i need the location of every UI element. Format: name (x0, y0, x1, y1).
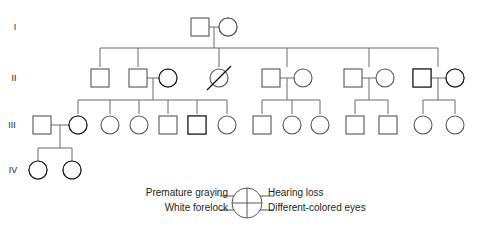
male-square[interactable] (33, 116, 51, 134)
individual-III-10[interactable] (311, 116, 329, 134)
male-square[interactable] (129, 69, 147, 87)
female-circle[interactable] (414, 116, 432, 134)
male-square[interactable] (344, 69, 362, 87)
individual-II-5[interactable] (262, 69, 280, 87)
male-square[interactable] (191, 18, 209, 36)
generation-label-III: III (8, 120, 16, 130)
individual-III-12[interactable] (379, 116, 397, 134)
sibship-connector (423, 100, 455, 114)
generation-label-IV: IV (9, 165, 18, 175)
male-outline (413, 69, 431, 87)
individual-III-7[interactable] (218, 116, 236, 134)
individual-I-1[interactable] (191, 18, 209, 36)
male-outline (188, 116, 206, 134)
individual-II-1[interactable] (91, 69, 109, 87)
individual-II-8[interactable] (376, 69, 394, 87)
individual-II-9[interactable] (413, 69, 431, 87)
individual-II-2[interactable] (129, 69, 147, 87)
male-square[interactable] (379, 116, 397, 134)
female-circle[interactable] (218, 116, 236, 134)
legend-label-right-0: Hearing loss (268, 187, 324, 198)
pedigree-canvas: IIIIIIIVPremature grayingWhite forelockH… (0, 0, 482, 228)
individual-III-13[interactable] (414, 116, 432, 134)
individual-III-6[interactable] (188, 116, 206, 134)
individual-IV-1[interactable] (29, 161, 47, 179)
individual-III-2[interactable] (69, 116, 87, 134)
female-circle[interactable] (376, 69, 394, 87)
individual-II-6[interactable] (294, 69, 312, 87)
female-outline (219, 18, 237, 36)
generation-label-I: I (14, 22, 17, 32)
female-outline (446, 69, 464, 87)
individual-III-14[interactable] (446, 116, 464, 134)
legend-label-left-0: Premature graying (146, 187, 228, 198)
male-square[interactable] (253, 116, 271, 134)
male-square[interactable] (262, 69, 280, 87)
male-square[interactable] (159, 116, 177, 134)
generation-label-II: II (11, 73, 16, 83)
sibship-connector (78, 100, 227, 114)
individual-II-10[interactable] (446, 69, 464, 87)
pedigree-chart: IIIIIIIVPremature grayingWhite forelockH… (0, 0, 482, 228)
female-circle[interactable] (311, 116, 329, 134)
sibship-connector (355, 100, 388, 114)
individual-III-5[interactable] (159, 116, 177, 134)
male-square[interactable] (91, 69, 109, 87)
individual-III-8[interactable] (253, 116, 271, 134)
sibship-connector (100, 48, 438, 67)
female-circle[interactable] (294, 69, 312, 87)
individual-III-4[interactable] (130, 116, 148, 134)
legend (220, 188, 274, 218)
female-circle[interactable] (283, 116, 301, 134)
female-circle[interactable] (446, 116, 464, 134)
female-outline (63, 161, 81, 179)
female-outline (69, 116, 87, 134)
individual-III-3[interactable] (101, 116, 119, 134)
legend-label-left-1: White forelock (165, 202, 229, 213)
sibship-connector (262, 100, 320, 114)
individual-III-9[interactable] (283, 116, 301, 134)
individual-III-1[interactable] (33, 116, 51, 134)
individual-II-4[interactable] (207, 66, 231, 90)
sibship-connector (38, 148, 72, 160)
legend-label-right-1: Different-colored eyes (268, 202, 366, 213)
female-circle[interactable] (101, 116, 119, 134)
individual-II-7[interactable] (344, 69, 362, 87)
individual-IV-2[interactable] (63, 161, 81, 179)
female-outline (29, 161, 47, 179)
female-outline (159, 69, 177, 87)
individual-I-2[interactable] (219, 18, 237, 36)
individual-III-11[interactable] (346, 116, 364, 134)
male-square[interactable] (346, 116, 364, 134)
female-circle[interactable] (130, 116, 148, 134)
individual-II-3[interactable] (159, 69, 177, 87)
